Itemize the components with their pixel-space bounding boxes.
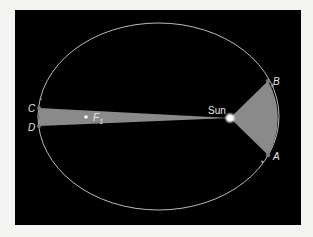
sector-cd (38, 108, 230, 126)
point-d-label: D (28, 122, 35, 133)
point-b-label: B (273, 76, 280, 87)
sun-label: Sun (208, 105, 226, 116)
point-d-marker (37, 124, 41, 128)
point-c-marker (37, 106, 41, 110)
point-cd-mid-marker (37, 116, 40, 119)
sector-ab (230, 81, 278, 155)
focus-f1-dot (84, 115, 88, 119)
sun-icon (227, 115, 232, 120)
point-c-label: C (28, 103, 36, 114)
point-a-marker (266, 153, 270, 157)
point-b-marker (266, 79, 270, 83)
kepler-diagram: Sun F1 B A C D (0, 0, 313, 237)
focus-label-subscript: 1 (100, 118, 104, 125)
point-a-label: A (272, 151, 280, 162)
